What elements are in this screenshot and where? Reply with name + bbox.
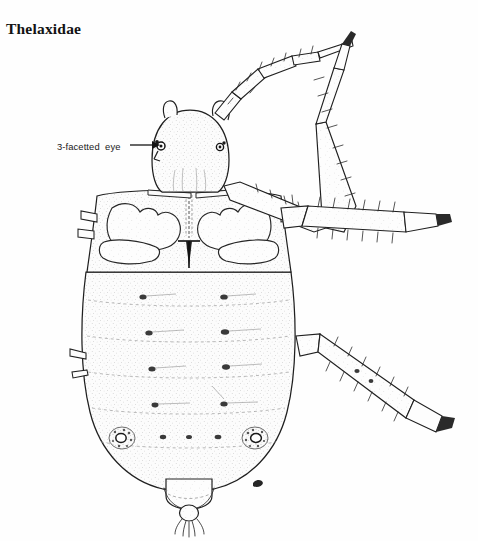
mid-leg — [281, 195, 452, 243]
mid-tarsus-claw — [436, 214, 452, 226]
ink-speck — [253, 480, 263, 492]
figure-plate: Thelaxidae 3-facetted eye — [0, 0, 478, 541]
abdomen — [70, 272, 295, 537]
aphid-dorsal-illustration — [0, 0, 478, 541]
fore-tarsus-claw — [342, 31, 356, 46]
hind-leg — [296, 334, 455, 432]
